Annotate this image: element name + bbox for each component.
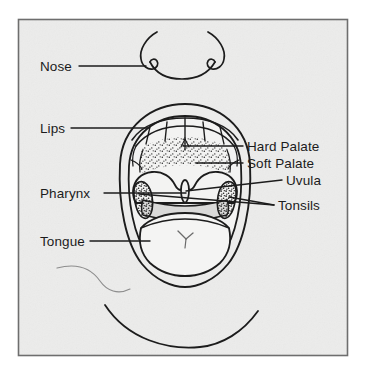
anatomy-figure: Nose Lips Pharynx Tongue Hard Palate Sof… [0, 0, 365, 373]
tongue [140, 213, 230, 276]
label-nose: Nose [40, 59, 72, 74]
label-lips: Lips [40, 121, 65, 136]
label-tongue: Tongue [40, 234, 85, 249]
label-pharynx: Pharynx [40, 186, 90, 201]
label-tonsils: Tonsils [278, 198, 320, 213]
uvula [181, 190, 189, 203]
mouth-anatomy-drawing: Nose Lips Pharynx Tongue Hard Palate Sof… [0, 0, 365, 373]
label-hard-palate: Hard Palate [247, 139, 319, 154]
label-uvula: Uvula [286, 173, 321, 188]
label-soft-palate: Soft Palate [247, 156, 314, 171]
